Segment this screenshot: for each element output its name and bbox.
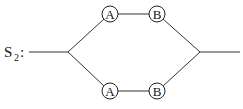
- upper-branch-in-wire: [68, 19, 104, 52]
- lower-component-a: A: [102, 83, 118, 99]
- system-label-colon: :: [20, 44, 24, 60]
- component-label: A: [105, 84, 115, 99]
- component-label: A: [105, 7, 115, 22]
- system-label: S: [4, 44, 12, 60]
- component-label: B: [153, 7, 162, 22]
- lower-branch-out-wire: [163, 52, 200, 86]
- lower-component-b: B: [149, 83, 165, 99]
- reliability-diagram-s2: S 2 : A B A B: [0, 0, 243, 109]
- upper-branch-out-wire: [163, 19, 200, 52]
- lower-branch-in-wire: [68, 52, 104, 86]
- upper-component-b: B: [149, 6, 165, 22]
- upper-component-a: A: [102, 6, 118, 22]
- component-label: B: [153, 84, 162, 99]
- system-label-subscript: 2: [14, 52, 19, 63]
